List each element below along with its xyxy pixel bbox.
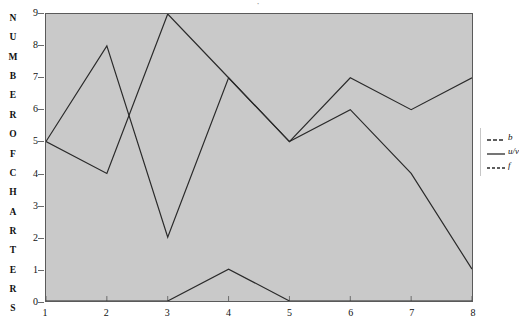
y-tick-label: 8 (22, 40, 38, 50)
x-tick-label: 8 (463, 308, 483, 318)
y-tick-label: 9 (22, 8, 38, 18)
x-tick-label: 5 (280, 308, 300, 318)
legend-item: f (487, 161, 519, 170)
y-caption-letter: C (10, 169, 17, 179)
y-tick-mark (38, 77, 44, 78)
x-tick-label: 1 (35, 308, 55, 318)
legend-item: b (487, 133, 519, 142)
y-tick-label: 2 (22, 233, 38, 243)
y-caption-letter: R (10, 285, 17, 295)
y-tick-label: 5 (22, 136, 38, 146)
y-caption-letter: F (10, 150, 16, 160)
plot-area (45, 13, 473, 302)
y-caption-letter: U (10, 33, 17, 43)
y-caption-letter: S (10, 304, 15, 314)
y-tick-mark (38, 13, 44, 14)
y-tick-mark (38, 302, 44, 303)
y-tick-label: 0 (22, 297, 38, 307)
plot-svg (46, 14, 472, 301)
y-tick-mark (38, 45, 44, 46)
legend-label: f (508, 161, 511, 170)
legend-item: u/v (487, 147, 519, 156)
y-tick-mark (38, 238, 44, 239)
y-caption-letter: H (9, 188, 16, 198)
chart-legend: bu/vf (487, 133, 519, 170)
y-caption-letter: A (10, 208, 17, 218)
y-caption-letter: R (10, 227, 17, 237)
series-line-u-v (46, 14, 472, 173)
y-tick-label: 4 (22, 169, 38, 179)
cropped-title: · (0, 0, 516, 6)
y-caption-letter: T (10, 246, 16, 256)
y-tick-label: 6 (22, 104, 38, 114)
x-tick-label: 7 (402, 308, 422, 318)
x-tick-label: 4 (218, 308, 238, 318)
series-line-f (46, 269, 472, 301)
y-axis-caption: NUMBEROFCHARTERS (6, 14, 20, 314)
series-line-b (46, 46, 472, 269)
y-tick-mark (38, 270, 44, 271)
y-caption-letter: B (10, 72, 16, 82)
y-caption-letter: N (10, 14, 17, 24)
y-tick-mark (38, 174, 44, 175)
y-tick-label: 3 (22, 201, 38, 211)
x-tick-label: 3 (157, 308, 177, 318)
legend-divider (480, 128, 481, 176)
legend-line-swatch-icon (487, 157, 505, 175)
y-tick-mark (38, 141, 44, 142)
y-caption-letter: O (9, 130, 16, 140)
y-caption-letter: R (10, 111, 17, 121)
y-caption-letter: E (10, 266, 16, 276)
y-tick-mark (38, 206, 44, 207)
y-tick-label: 7 (22, 72, 38, 82)
y-tick-mark (38, 109, 44, 110)
x-tick-label: 6 (341, 308, 361, 318)
y-caption-letter: E (10, 91, 16, 101)
y-tick-label: 1 (22, 265, 38, 275)
y-caption-letter: M (9, 53, 18, 63)
legend-label: u/v (508, 147, 519, 156)
legend-label: b (508, 133, 513, 142)
x-tick-label: 2 (96, 308, 116, 318)
